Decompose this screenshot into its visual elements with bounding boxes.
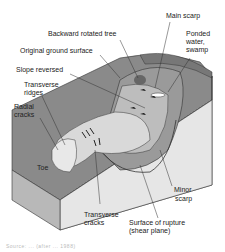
label-slope-reversed: Slope reversed bbox=[16, 66, 63, 74]
label-transverse-ridges-line1: Transverse bbox=[24, 81, 59, 89]
label-ponded-water-line3: swamp bbox=[186, 46, 208, 54]
backward-rotated-tree bbox=[134, 75, 146, 85]
label-surface-of-rupture-line2: (shear plane) bbox=[129, 227, 170, 235]
label-surface-of-rupture-line1: Surface of rupture bbox=[129, 219, 185, 227]
label-minor-scarp-line1: Minor bbox=[174, 186, 192, 194]
label-radial-cracks-line1: Radial bbox=[14, 103, 34, 111]
label-transverse-cracks-line1: Transverse bbox=[84, 211, 119, 219]
label-ponded-water-line1: Ponded bbox=[186, 30, 210, 38]
label-radial-cracks-line2: cracks bbox=[14, 111, 34, 119]
label-main-scarp: Main scarp bbox=[166, 12, 200, 20]
label-minor-scarp-line2: scarp bbox=[175, 195, 192, 203]
label-ponded-water-line2: water, bbox=[186, 38, 205, 46]
label-transverse-ridges-line2: ridges bbox=[24, 89, 43, 97]
label-toe: Toe bbox=[37, 164, 48, 172]
label-backward-rotated-tree: Backward rotated tree bbox=[48, 30, 116, 38]
figure-caption: Source: ... (after ... 1988) bbox=[6, 243, 76, 249]
label-transverse-cracks-line2: cracks bbox=[84, 219, 104, 227]
label-original-ground-surface: Original ground surface bbox=[20, 47, 93, 55]
